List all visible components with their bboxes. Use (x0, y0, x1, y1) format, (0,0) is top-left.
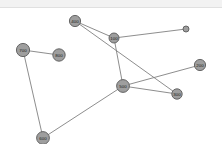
graph-node-circle[interactable] (16, 43, 29, 56)
graph-node-circle[interactable] (183, 26, 189, 32)
graph-node-circle[interactable] (69, 15, 80, 26)
header-strip (0, 0, 222, 8)
graph-node[interactable]: 800 (53, 49, 65, 61)
graph-node[interactable]: 700 (16, 43, 29, 56)
graph-edge (23, 50, 43, 138)
graph-node[interactable]: 300 (172, 89, 182, 99)
graph-node-circle[interactable] (37, 132, 50, 144)
graph-edge (114, 29, 186, 38)
graph-diagram-app: 100200300400500600700800 (0, 0, 222, 144)
graph-node[interactable]: 200 (194, 59, 205, 70)
graph-node-circle[interactable] (109, 33, 119, 43)
graph-edge (114, 38, 123, 86)
graph-node[interactable] (183, 26, 189, 32)
graph-node-circle[interactable] (172, 89, 182, 99)
graph-node[interactable]: 400 (69, 15, 80, 26)
graph-edge (43, 86, 123, 138)
graph-node-circle[interactable] (194, 59, 205, 70)
graph-node-circle[interactable] (117, 80, 130, 93)
graph-node[interactable]: 100 (109, 33, 119, 43)
graph-node[interactable]: 500 (117, 80, 130, 93)
graph-node-circle[interactable] (53, 49, 65, 61)
nodes-layer: 100200300400500600700800 (16, 15, 205, 144)
graph-node[interactable]: 600 (37, 132, 50, 144)
graph-canvas[interactable]: 100200300400500600700800 (0, 8, 222, 144)
graph-edge (123, 86, 177, 94)
